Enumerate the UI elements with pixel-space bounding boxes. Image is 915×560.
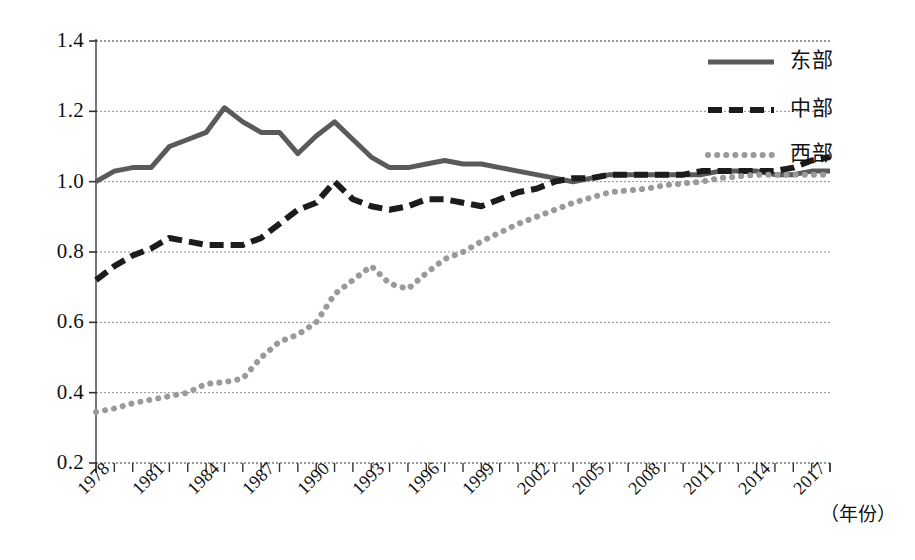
chart-container: 1.41.21.00.80.60.40.21978198119841987199… [0, 0, 915, 560]
y-axis-tick-label: 0.6 [38, 311, 84, 332]
legend-label-中部[interactable]: 中部 [790, 98, 834, 119]
legend-label-西部[interactable]: 西部 [790, 143, 834, 164]
legend-label-东部[interactable]: 东部 [790, 50, 834, 71]
y-axis-tick-label: 1.0 [38, 171, 84, 192]
y-axis-tick-label: 0.4 [38, 382, 84, 403]
y-axis-tick-label: 1.2 [38, 100, 84, 121]
y-axis-tick-label: 0.2 [38, 452, 84, 473]
series-line-1 [96, 157, 830, 280]
x-axis-unit-label: （年份） [820, 505, 896, 524]
series-line-2 [96, 175, 830, 412]
y-axis-tick-label: 0.8 [38, 241, 84, 262]
y-axis-tick-label: 1.4 [38, 30, 84, 51]
